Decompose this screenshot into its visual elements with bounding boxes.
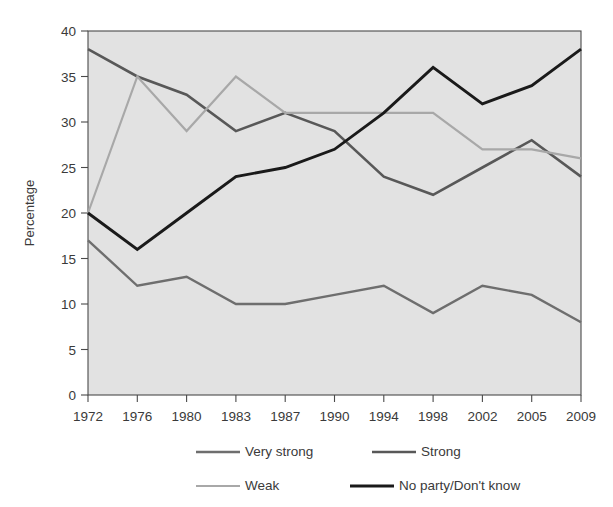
line-chart-figure: 0510152025303540 Percentage 197219761980… [0, 0, 613, 507]
legend-label-1: Strong [421, 444, 461, 459]
x-tick-label: 1990 [319, 409, 349, 424]
x-tick-label: 1994 [369, 409, 400, 424]
x-tick-label: 1987 [270, 409, 300, 424]
x-tick-label: 1976 [122, 409, 152, 424]
y-tick-label: 10 [61, 297, 76, 312]
y-tick-label: 5 [68, 343, 76, 358]
x-tick-label: 1980 [172, 409, 202, 424]
x-axis-tick-labels: 1972197619801983198719901994199820022005… [73, 409, 596, 424]
legend-label-0: Very strong [245, 444, 313, 459]
x-tick-label: 2005 [517, 409, 547, 424]
y-tick-label: 0 [68, 388, 76, 403]
x-tick-label: 1998 [418, 409, 448, 424]
y-tick-label: 30 [61, 115, 76, 130]
legend-label-3: No party/Don't know [399, 478, 520, 493]
y-tick-label: 15 [61, 252, 76, 267]
x-tick-label: 2009 [566, 409, 596, 424]
x-tick-label: 2002 [467, 409, 497, 424]
y-tick-label: 20 [61, 206, 76, 221]
y-axis-title: Percentage [22, 180, 37, 247]
legend-label-2: Weak [245, 478, 280, 493]
y-tick-label: 25 [61, 161, 76, 176]
x-tick-label: 1972 [73, 409, 103, 424]
y-tick-label: 35 [61, 70, 76, 85]
x-tick-label: 1983 [221, 409, 251, 424]
y-tick-label: 40 [61, 24, 76, 39]
